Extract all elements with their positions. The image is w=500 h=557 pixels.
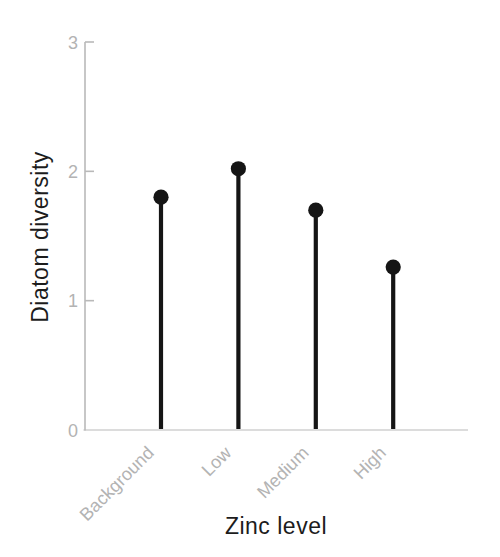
plot-area: 0123BackgroundLowMediumHigh [0, 0, 500, 557]
x-tick-label-medium: Medium [253, 443, 312, 502]
y-tick-label-0: 0 [68, 421, 78, 441]
dot-high [386, 259, 401, 274]
dot-background [153, 190, 168, 205]
x-tick-label-high: High [350, 443, 390, 483]
y-tick-label-2: 2 [68, 162, 78, 182]
y-axis-title: Diatom diversity [27, 151, 54, 323]
lollipop-chart: 0123BackgroundLowMediumHigh Diatom diver… [0, 0, 500, 557]
y-tick-label-1: 1 [68, 291, 78, 311]
x-tick-label-low: Low [198, 442, 236, 480]
x-tick-label-background: Background [76, 443, 158, 525]
y-tick-label-3: 3 [68, 33, 78, 53]
dot-low [231, 161, 246, 176]
dot-medium [308, 203, 323, 218]
x-axis-title: Zinc level [225, 513, 327, 540]
